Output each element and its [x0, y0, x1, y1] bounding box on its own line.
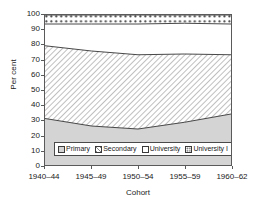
band-university-i: [45, 15, 231, 24]
legend-swatch-university-i-icon: [185, 146, 192, 153]
x-tick-label: 1960–62: [202, 172, 256, 181]
x-tick-mark: [232, 166, 233, 169]
legend-swatch-university-icon: [142, 146, 149, 153]
x-axis-tick-marks: [44, 166, 232, 171]
legend-label-primary: Primary: [66, 145, 90, 153]
x-axis-title: Cohort: [44, 188, 232, 197]
band-secondary: [45, 46, 231, 129]
y-axis-tick-marks: [0, 14, 45, 166]
legend-label-university-i: University I: [193, 145, 228, 153]
x-tick-mark: [44, 166, 45, 169]
x-tick-mark: [138, 166, 139, 169]
legend-item-university-i[interactable]: University I: [185, 145, 228, 153]
chart-legend: Primary Secondary University University …: [54, 142, 232, 156]
plot-area: Primary Secondary University University …: [44, 14, 232, 166]
x-tick-mark: [185, 166, 186, 169]
legend-label-secondary: Secondary: [103, 145, 136, 153]
legend-label-university: University: [150, 145, 181, 153]
legend-item-primary[interactable]: Primary: [58, 145, 90, 153]
legend-swatch-secondary-icon: [95, 146, 102, 153]
legend-swatch-primary-icon: [58, 146, 65, 153]
x-axis-tick-labels: 1940–441945–491950–541955–591960–62: [0, 172, 256, 184]
chart-figure: Per cent 0102030405060708090100 Primary: [0, 0, 256, 220]
legend-item-secondary[interactable]: Secondary: [95, 145, 136, 153]
x-tick-mark: [91, 166, 92, 169]
legend-item-university[interactable]: University: [142, 145, 181, 153]
